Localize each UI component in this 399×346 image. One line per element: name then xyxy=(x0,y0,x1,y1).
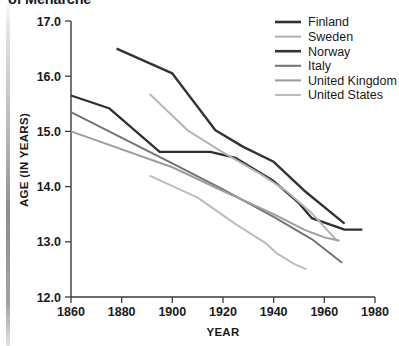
y-axis-ticks xyxy=(65,21,71,297)
legend-label-finland: Finland xyxy=(308,15,349,29)
y-tick-label: 15.0 xyxy=(37,125,61,139)
legend-label-united-states: United States xyxy=(308,88,383,102)
x-tick-label: 1920 xyxy=(209,305,237,319)
x-axis-title: YEAR xyxy=(206,326,240,338)
y-tick-label: 16.0 xyxy=(37,70,61,84)
legend-label-united-kingdom: United Kingdom xyxy=(308,74,397,88)
x-tick-label: 1960 xyxy=(310,305,338,319)
y-axis-title: AGE (IN YEARS) xyxy=(18,113,30,207)
y-tick-label: 13.0 xyxy=(37,235,61,249)
y-axis-tick-labels: 12.013.014.015.016.017.0 xyxy=(37,15,61,305)
y-tick-label: 12.0 xyxy=(37,291,61,305)
scan-edge-artifact xyxy=(6,0,10,346)
line-chart-plot: 1860188019001920194019601980 12.013.014.… xyxy=(0,0,399,346)
chart-figure: of Menarche 1860188019001920194019601980… xyxy=(0,0,399,346)
y-tick-label: 14.0 xyxy=(37,180,61,194)
x-axis-ticks xyxy=(71,297,375,303)
x-tick-label: 1880 xyxy=(108,305,136,319)
chart-title: of Menarche xyxy=(8,0,91,7)
x-tick-label: 1900 xyxy=(158,305,186,319)
legend: FinlandSwedenNorwayItalyUnited KingdomUn… xyxy=(275,15,397,102)
legend-label-norway: Norway xyxy=(308,45,351,59)
series-line-finland xyxy=(71,96,362,230)
legend-label-sweden: Sweden xyxy=(308,30,353,44)
legend-label-italy: Italy xyxy=(308,59,332,73)
x-axis-tick-labels: 1860188019001920194019601980 xyxy=(57,305,389,319)
x-tick-label: 1860 xyxy=(57,305,85,319)
y-tick-label: 17.0 xyxy=(37,15,61,29)
series-line-sweden xyxy=(150,94,337,241)
x-tick-label: 1940 xyxy=(260,305,288,319)
x-tick-label: 1980 xyxy=(361,305,389,319)
